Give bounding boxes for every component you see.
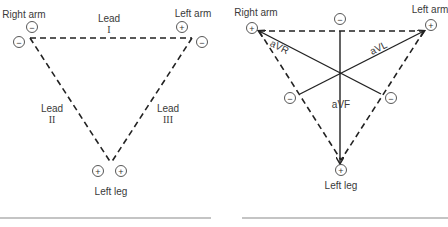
left-arm-label: Left arm (412, 4, 448, 15)
limb-leads-figure: Right arm Left arm Left leg Lead I Lead … (0, 0, 448, 227)
lead-II-line (30, 38, 111, 163)
minus-circle-icon: − (285, 93, 296, 104)
lead-I-numeral: I (107, 24, 110, 35)
minus-circle-icon: − (335, 14, 346, 25)
aVF-label: aVF (332, 99, 350, 110)
plus-circle-icon: + (247, 23, 258, 34)
left-leg-label: Left leg (325, 180, 358, 191)
svg-text:−: − (29, 23, 34, 33)
lead-III-word: Lead (157, 103, 179, 114)
augmented-leads-diagram: aVR aVL aVF Right arm Left arm Left leg … (234, 4, 448, 191)
lead-III-numeral: III (163, 114, 173, 125)
lead-I-word: Lead (98, 13, 120, 24)
lead-II-word: Lead (41, 103, 63, 114)
aVR-label: aVR (268, 38, 290, 57)
lead-III-line (111, 38, 192, 163)
right-arm-label: Right arm (2, 9, 45, 20)
lead-II-numeral: II (49, 114, 56, 125)
plus-circle-icon: + (336, 165, 347, 176)
minus-circle-icon: − (14, 37, 25, 48)
svg-text:+: + (338, 166, 343, 176)
svg-text:+: + (249, 24, 254, 34)
svg-text:−: − (337, 15, 342, 25)
svg-text:+: + (118, 167, 123, 177)
triangle-left-edge (259, 31, 341, 160)
svg-text:−: − (287, 94, 292, 104)
einthoven-triangle-diagram: Right arm Left arm Left leg Lead I Lead … (2, 8, 211, 197)
plus-circle-icon: + (93, 166, 104, 177)
svg-text:−: − (388, 94, 393, 104)
left-arm-label: Left arm (175, 8, 212, 19)
plus-circle-icon: + (426, 20, 437, 31)
svg-text:+: + (179, 23, 184, 33)
plus-circle-icon: + (177, 22, 188, 33)
svg-text:−: − (16, 38, 21, 48)
minus-circle-icon: − (27, 22, 38, 33)
minus-circle-icon: − (386, 93, 397, 104)
left-leg-label: Left leg (95, 186, 128, 197)
svg-text:+: + (95, 167, 100, 177)
right-arm-label: Right arm (234, 7, 277, 18)
svg-text:+: + (428, 21, 433, 31)
svg-text:−: − (199, 38, 204, 48)
minus-circle-icon: − (197, 37, 208, 48)
plus-circle-icon: + (116, 166, 127, 177)
